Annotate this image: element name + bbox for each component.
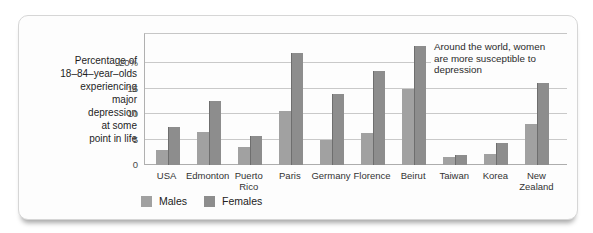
bar-males-puerto-rico bbox=[238, 147, 250, 165]
bar-group-taiwan bbox=[435, 155, 476, 165]
bar-females-korea bbox=[496, 143, 508, 165]
y-tick-label-5: 5 bbox=[104, 134, 138, 145]
chart-panel: Percentage of18–84–year–oldsexperiencing… bbox=[18, 15, 578, 220]
bar-males-edmonton bbox=[197, 132, 209, 165]
legend-item-females: Females bbox=[204, 195, 262, 207]
x-label-new-zealand: New Zealand bbox=[506, 171, 566, 192]
bar-females-edmonton bbox=[209, 101, 221, 165]
y-tick-label-10: 10 bbox=[104, 108, 138, 119]
legend-swatch-females bbox=[204, 196, 215, 207]
chart-annotation: Around the world, women are more suscept… bbox=[431, 40, 569, 77]
y-tick-label-0: 0 bbox=[104, 159, 138, 170]
bar-females-florence bbox=[373, 71, 385, 165]
bar-group-germany bbox=[311, 94, 352, 165]
legend-swatch-males bbox=[141, 196, 152, 207]
bar-group-beirut bbox=[394, 46, 435, 165]
legend-label-females: Females bbox=[222, 195, 262, 207]
bar-group-florence bbox=[353, 71, 394, 165]
bar-group-usa bbox=[147, 127, 188, 165]
bar-females-taiwan bbox=[455, 155, 467, 165]
bar-males-new-zealand bbox=[525, 124, 537, 165]
bar-males-korea bbox=[484, 154, 496, 165]
bar-group-edmonton bbox=[188, 101, 229, 165]
legend-item-males: Males bbox=[141, 195, 187, 207]
bar-males-usa bbox=[156, 150, 168, 165]
y-axis-title-line: 18–84–year–olds bbox=[25, 67, 137, 80]
y-tick-label-20: 20% bbox=[104, 57, 138, 68]
bar-group-new-zealand bbox=[517, 83, 558, 165]
y-tick-label-15: 15 bbox=[104, 83, 138, 94]
bar-group-puerto-rico bbox=[229, 136, 270, 165]
bar-males-beirut bbox=[402, 89, 414, 165]
bar-females-paris bbox=[291, 53, 303, 165]
chart-legend: MalesFemales bbox=[141, 195, 262, 207]
bar-males-paris bbox=[279, 111, 291, 165]
bar-females-new-zealand bbox=[537, 83, 549, 165]
y-axis-title-line: at some bbox=[25, 119, 137, 132]
bar-females-germany bbox=[332, 94, 344, 165]
bar-males-florence bbox=[361, 133, 373, 165]
y-axis-title-line: major bbox=[25, 93, 137, 106]
bar-group-paris bbox=[270, 53, 311, 165]
bar-males-taiwan bbox=[443, 157, 455, 165]
bar-females-beirut bbox=[414, 46, 426, 165]
bar-males-germany bbox=[320, 140, 332, 165]
legend-label-males: Males bbox=[159, 195, 187, 207]
bar-females-usa bbox=[168, 127, 180, 165]
bar-group-korea bbox=[476, 143, 517, 165]
bar-females-puerto-rico bbox=[250, 136, 262, 165]
